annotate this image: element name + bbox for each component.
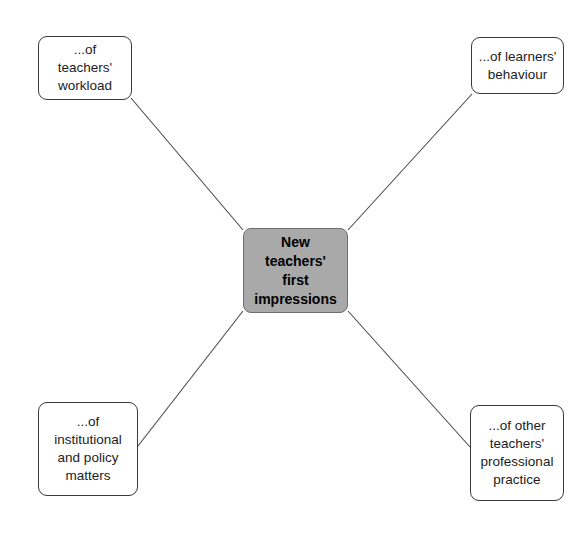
node-teachers-workload[interactable]: ...of teachers' workload [38,36,132,100]
connector-center-to-bottom-left [138,311,243,446]
node-new-teachers-first-impressions[interactable]: New teachers' first impressions [243,228,348,313]
node-learners-behaviour[interactable]: ...of learners' behaviour [471,37,564,94]
node-other-teachers-professional-practice[interactable]: ...of other teachers' professional pract… [470,405,564,501]
connector-center-to-top-left [131,98,243,230]
connector-center-to-top-right [348,94,472,230]
node-teachers-workload-label: ...of teachers' workload [54,41,116,95]
node-learners-behaviour-label: ...of learners' behaviour [475,48,561,84]
connector-center-to-bottom-right [348,311,470,447]
node-institutional-policy-matters[interactable]: ...of institutional and policy matters [38,402,138,496]
node-institutional-policy-matters-label: ...of institutional and policy matters [50,413,126,485]
node-new-teachers-first-impressions-label: New teachers' first impressions [250,233,340,309]
node-other-teachers-professional-practice-label: ...of other teachers' professional pract… [477,417,558,489]
diagram-canvas: ...of teachers' workload ...of learners'… [0,0,586,535]
